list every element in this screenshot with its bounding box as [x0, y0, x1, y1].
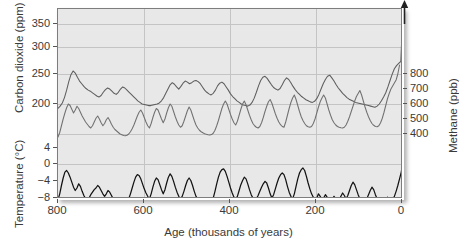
tick-mark-co2 [53, 73, 57, 74]
tick-mark-co2 [53, 46, 57, 47]
co2-series-line [58, 9, 402, 108]
series-svg [58, 9, 402, 198]
tick-mark-methane [403, 73, 407, 74]
tick-label-age-0: 0 [381, 204, 421, 216]
tick-mark-age [229, 199, 230, 203]
tick-mark-age [143, 199, 144, 203]
tick-label-ch4-400: 400 [410, 127, 428, 139]
modern-co2-arrow-icon [400, 0, 409, 24]
tick-label-age-800: 800 [37, 204, 77, 216]
tick-label-ch4-800: 800 [410, 67, 428, 79]
tick-label-ch4-700: 700 [410, 82, 428, 94]
tick-mark-methane [403, 118, 407, 119]
tick-mark-temperature [53, 163, 57, 164]
tick-mark-co2 [53, 103, 57, 104]
tick-label-age-200: 200 [295, 204, 335, 216]
methane-series-line [58, 65, 400, 137]
axis-title-methane: Methane (ppb) [447, 78, 459, 153]
axis-title-temperature: Temperature (°C) [13, 140, 25, 228]
tick-mark-temperature [53, 147, 57, 148]
tick-mark-age [315, 199, 316, 203]
tick-mark-temperature [53, 197, 57, 198]
tick-mark-methane [403, 133, 407, 134]
tick-mark-age [401, 199, 402, 203]
tick-mark-age [57, 199, 58, 203]
tick-mark-methane [403, 88, 407, 89]
tick-label-age-400: 400 [209, 204, 249, 216]
axis-title-age: Age (thousands of years) [0, 226, 457, 238]
temperature-series-line [58, 164, 402, 198]
tick-label-ch4-600: 600 [410, 97, 428, 109]
tick-mark-methane [403, 103, 407, 104]
tick-label-ch4-500: 500 [410, 112, 428, 124]
tick-label-age-600: 600 [123, 204, 163, 216]
axis-title-carbon-dioxide: Carbon dioxide (ppm) [13, 2, 25, 113]
tick-mark-co2 [53, 23, 57, 24]
plot-area [57, 8, 402, 198]
tick-mark-temperature [53, 180, 57, 181]
